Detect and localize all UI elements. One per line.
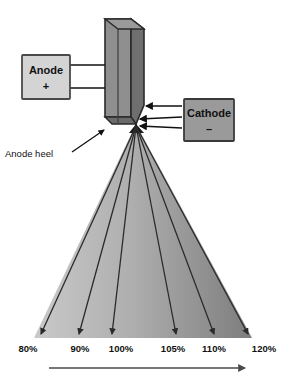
anode-box-label: Anode [29,64,63,76]
intensity-label-4: 110% [202,343,226,354]
cathode-box-label: Cathode [187,107,231,119]
anode-heel-callout: Anode heel [5,130,104,159]
beam-field [34,124,252,338]
electron-arrow-3 [140,126,182,128]
anode-polarity-sign: + [43,80,49,92]
intensity-label-3: 105% [161,343,186,354]
anode-heel-effect-diagram: Anode + Cathode – Anode heel [0,0,292,379]
cathode-polarity-sign: – [206,123,212,135]
cathode-box[interactable]: Cathode – [184,99,234,141]
anode-heel-pointer-arrow [72,130,104,152]
anode-connectors [70,65,105,88]
anode-box[interactable]: Anode + [22,55,70,99]
intensity-label-5: 120% [252,343,277,354]
electron-beam-arrows [140,106,182,128]
anode-block-side-face [131,19,144,124]
intensity-label-1: 90% [70,343,90,354]
intensity-scale-labels: 80% 90% 100% 105% 110% 120% [18,343,276,354]
anode-heel-label: Anode heel [5,148,53,159]
xray-beam-fan [34,124,252,338]
anode-box-rect[interactable] [22,55,70,99]
intensity-label-0: 80% [18,343,38,354]
anode-block [105,19,144,124]
diagram-canvas: Anode + Cathode – Anode heel [0,0,292,379]
intensity-label-2: 100% [109,343,134,354]
anode-heel-bevel [105,117,136,124]
electron-arrow-2 [140,117,182,119]
